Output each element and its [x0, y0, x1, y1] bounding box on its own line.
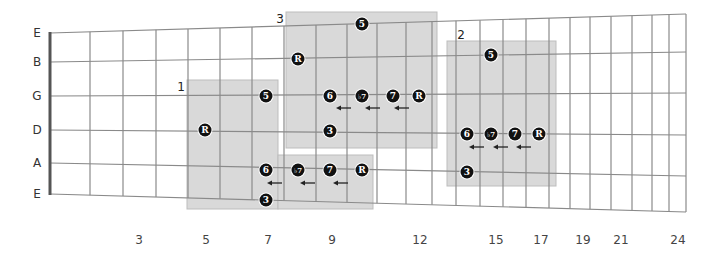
note-dot: 3	[260, 194, 273, 207]
position-number: 1	[177, 81, 185, 93]
note-dot: R	[199, 124, 212, 137]
fret-number: 19	[575, 234, 590, 246]
note-dot: 6	[324, 90, 337, 103]
position-boxes	[187, 12, 556, 209]
note-dot: 3	[324, 125, 337, 138]
string-label: A	[33, 157, 41, 169]
position-number: 3	[276, 13, 284, 25]
note-dot: 7	[387, 90, 400, 103]
position-number: 2	[457, 29, 465, 41]
note-dot: 3	[461, 166, 474, 179]
string-label: D	[32, 124, 41, 136]
fret-number: 5	[202, 234, 210, 246]
fretboard-grid	[0, 0, 722, 260]
note-dot: ♭7	[356, 90, 369, 103]
fret-number: 12	[412, 234, 427, 246]
note-dot: R	[533, 128, 546, 141]
note-dot: 6	[461, 128, 474, 141]
note-dot: R	[356, 164, 369, 177]
fret-number: 3	[135, 234, 143, 246]
note-dot: 6	[260, 164, 273, 177]
note-dot: ♭7	[485, 128, 498, 141]
string-label: G	[32, 90, 41, 102]
note-dot: R	[292, 53, 305, 66]
string-label: E	[33, 188, 41, 200]
fret-number: 21	[613, 234, 628, 246]
string-label: B	[33, 56, 41, 68]
position-box-3	[286, 12, 437, 148]
position-box-2	[447, 41, 556, 186]
note-dot: R	[413, 90, 426, 103]
string-label: E	[33, 27, 41, 39]
note-dot: 7	[509, 128, 522, 141]
fret-number: 24	[670, 234, 685, 246]
note-dot: 5	[356, 18, 369, 31]
fret-number: 7	[264, 234, 272, 246]
note-dot: ♭7	[292, 164, 305, 177]
note-dot: 7	[324, 164, 337, 177]
note-dot: 5	[260, 90, 273, 103]
fret-number: 9	[328, 234, 336, 246]
note-dot: 5	[485, 49, 498, 62]
fret-number: 15	[488, 234, 503, 246]
fret-number: 17	[533, 234, 548, 246]
